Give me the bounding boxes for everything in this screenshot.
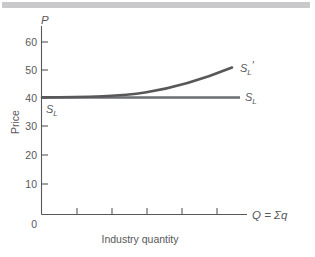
y-tick-label-20: 20 bbox=[25, 149, 37, 161]
sl-curve-label: SL bbox=[245, 91, 257, 106]
supply-curve-chart: 60 50 40 30 20 10 0 P Price Q = Σq SL SL… bbox=[0, 0, 315, 257]
sl-label-sub: L bbox=[252, 97, 256, 106]
y-tick-label-30: 30 bbox=[25, 120, 37, 132]
y-tick-label-60: 60 bbox=[25, 36, 37, 48]
sl-prime-label-prime: ′ bbox=[252, 59, 255, 71]
y-tick-label-10: 10 bbox=[25, 178, 37, 190]
y-tick-label-40: 40 bbox=[25, 92, 37, 104]
y-tick-label-0: 0 bbox=[31, 218, 37, 230]
y-axis-symbol: P bbox=[41, 14, 49, 26]
y-tick-label-50: 50 bbox=[25, 64, 37, 76]
sl-axis-annotation-sub: L bbox=[53, 109, 57, 118]
x-axis-symbol: Q = Σq bbox=[252, 209, 288, 221]
supply-curve-sl-prime bbox=[42, 68, 232, 98]
sl-prime-curve-label: SL′ bbox=[240, 59, 255, 77]
figure-container: 60 50 40 30 20 10 0 P Price Q = Σq SL SL… bbox=[0, 0, 315, 257]
y-axis-title: Price bbox=[9, 110, 21, 134]
figure-caption: Industry quantity bbox=[101, 233, 179, 245]
sl-axis-annotation: SL bbox=[46, 103, 58, 118]
